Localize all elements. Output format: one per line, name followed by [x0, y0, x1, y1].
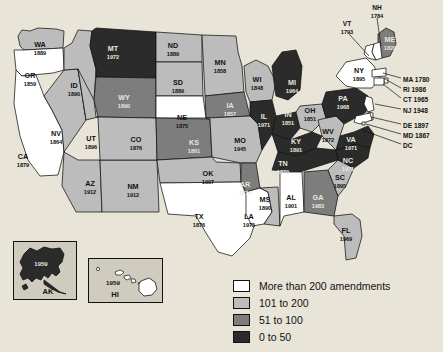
legend-label-200plus: More than 200 amendments [259, 280, 390, 292]
state-nm [100, 160, 159, 212]
state-mt [90, 28, 156, 78]
state-sd [156, 62, 203, 96]
amendment-count-legend: More than 200 amendments 101 to 200 51 t… [233, 277, 390, 345]
leader-line-ri [385, 79, 401, 88]
leader-line-vt [349, 34, 369, 56]
legend-item: 0 to 50 [233, 328, 390, 345]
state-wi [244, 60, 276, 102]
state-dc [362, 122, 365, 125]
callout-label-ma: MA 1780 [403, 76, 430, 83]
alaska-inset: 1959 AK [13, 241, 77, 300]
legend-swatch-0-50 [233, 331, 250, 343]
leader-line-nj [375, 104, 401, 109]
legend-item: 51 to 100 [233, 311, 390, 328]
callout-label-dc: DC [403, 142, 413, 149]
state-ok [157, 157, 241, 183]
legend-swatch-101-200 [233, 297, 250, 309]
legend-label-0-50: 0 to 50 [259, 331, 291, 343]
callout-label-nj: NJ 1948 [403, 107, 428, 114]
hi-abbr: HI [111, 290, 119, 299]
state-ks [156, 118, 212, 160]
alaska-shape: 1959 AK [14, 242, 76, 299]
callout-label-ct: CT 1965 [403, 96, 429, 103]
legend-item: 101 to 200 [233, 294, 390, 311]
callout-year-nh: 1784 [371, 13, 384, 19]
state-ct [374, 78, 384, 85]
hi-year: 1959 [106, 279, 120, 286]
state-wy [94, 77, 156, 118]
callout-label-de: DE 1897 [403, 122, 429, 129]
state-co [98, 117, 157, 160]
legend-swatch-200plus [233, 280, 250, 292]
callout-year-vt: 1793 [341, 29, 353, 35]
hawaii-shape: 1959 HI [89, 259, 162, 302]
state-al [280, 172, 304, 226]
state-ma [372, 68, 386, 77]
state-az [62, 152, 102, 212]
hawaii-inset: 1959 HI [88, 258, 163, 303]
callout-label-ri: RI 1986 [403, 86, 426, 93]
state-nd [156, 32, 202, 62]
state-ne [156, 96, 206, 118]
state-ia [205, 92, 250, 118]
legend-item: More than 200 amendments [233, 277, 390, 294]
legend-label-51-100: 51 to 100 [259, 314, 303, 326]
state-mi [272, 50, 302, 100]
legend-swatch-51-100 [233, 314, 250, 326]
us-amendments-map: WA1889OR1859CA1879NV1864ID1890MT1972WY18… [0, 0, 443, 352]
state-or [14, 48, 64, 76]
state-mn [202, 35, 244, 96]
state-year: 1879 [17, 162, 29, 168]
state-year: 1896 [85, 144, 97, 150]
state-label-ut: UT1896 [85, 134, 97, 150]
state-tx [160, 182, 258, 256]
state-ar [241, 163, 260, 192]
state-wa [18, 28, 64, 50]
leader-line-de [371, 117, 401, 124]
callout-abbr-nh: NH [372, 4, 382, 11]
callout-label-md: MD 1867 [403, 132, 430, 139]
state-fl [334, 214, 362, 260]
callout-abbr-vt: VT [343, 20, 351, 27]
state-mo [206, 116, 262, 163]
legend-label-101-200: 101 to 200 [259, 297, 309, 309]
state-abbr: UT [86, 134, 96, 143]
